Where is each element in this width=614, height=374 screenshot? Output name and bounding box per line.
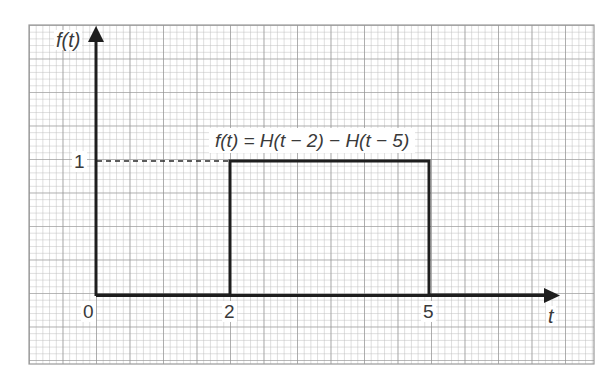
x-axis-label: t xyxy=(546,306,556,326)
y-axis-label: f(t) xyxy=(54,30,82,50)
origin-label: 0 xyxy=(81,301,96,322)
function-annotation: f(t) = H(t − 2) − H(t − 5) xyxy=(209,128,415,153)
x-tick-label-5: 5 xyxy=(421,301,436,322)
graph-paper-grid xyxy=(29,25,594,364)
x-tick-label-2: 2 xyxy=(222,301,237,322)
y-tick-label-1: 1 xyxy=(72,151,87,172)
